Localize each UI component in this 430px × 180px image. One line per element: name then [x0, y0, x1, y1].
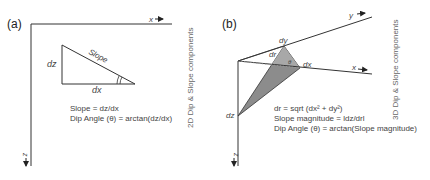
dy-label: dy — [279, 36, 288, 45]
z-axis-label-3d: z — [233, 152, 240, 157]
angle-arc — [117, 76, 119, 84]
slope-label: Slope — [87, 47, 110, 65]
dr-label: dr — [269, 50, 276, 59]
side-title-3d: 3D Dip & Slope components — [391, 20, 400, 121]
dx-label-3d: dx — [303, 60, 312, 69]
dz-label-3d: dz — [226, 111, 234, 120]
equation-slope: Slope = dz/dx — [70, 104, 119, 113]
dz-label: dz — [47, 59, 57, 69]
dip-slope-diagram: (a) x z dz dx Slope Slope = dz/dx Dip An… — [0, 0, 430, 180]
y-axis-label: y — [348, 11, 354, 20]
x-axis-label: x — [148, 15, 154, 24]
equation-dip-angle: Dip Angle (θ) = arctan(dz/dx) — [70, 114, 172, 123]
equation-dip-angle-3d: Dip Angle (θ) = arctan(Slope magnitude) — [274, 124, 417, 133]
z-axis-label: z — [22, 152, 29, 157]
y-arrow-icon — [357, 13, 365, 14]
dx-label: dx — [92, 85, 102, 95]
panel-a-label: (a) — [7, 17, 22, 31]
panel-b: (b) y x z dy dr dx dz θ dr = sqrt (dx² +… — [222, 11, 417, 166]
equation-slope-magnitude: Slope magnitude = ldz/drl — [274, 114, 365, 123]
equation-dr: dr = sqrt (dx² + dy²) — [274, 104, 343, 113]
panel-b-label: (b) — [222, 17, 237, 31]
x-arrow-icon-3d — [358, 69, 367, 70]
side-title-2d: 2D Dip & Slope components — [186, 28, 195, 129]
panel-a: (a) x z dz dx Slope Slope = dz/dx Dip An… — [7, 15, 195, 166]
x-axis-label-3d: x — [351, 63, 357, 72]
angle-arc-inner — [120, 77, 122, 84]
